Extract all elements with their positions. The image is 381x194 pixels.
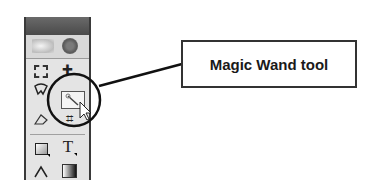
mouse-cursor-icon (80, 102, 91, 120)
callout-leader-line (99, 64, 182, 86)
callout-overlay (0, 0, 381, 194)
highlight-circle (48, 74, 100, 126)
callout-box: Magic Wand tool (181, 40, 357, 88)
callout-label: Magic Wand tool (210, 56, 329, 73)
